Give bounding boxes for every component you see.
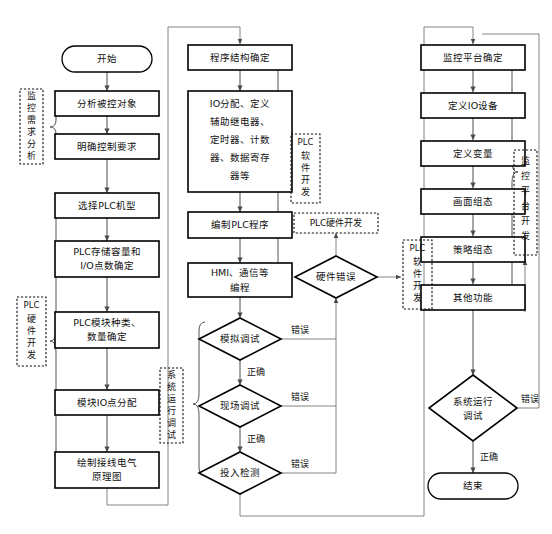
- annotation-monitor-platform-dev-c6: 发: [521, 230, 530, 241]
- node-wiring-diagram-line1: 绘制接线电气: [77, 457, 137, 468]
- node-define-variable[interactable]: 定义变量: [421, 141, 525, 166]
- node-plc-memory-io-line1: PLC存储容量和: [73, 246, 141, 257]
- annotation-plc-sw-dev-right-c4: 开: [413, 281, 422, 291]
- brace-sys-run-debug: [193, 322, 205, 476]
- annotation-plc-hw-dev-left-c1: PLC: [24, 300, 40, 310]
- node-io-allocation-line2: 辅助继电器、: [210, 116, 270, 127]
- edge-label-sim-ok: 正确: [247, 366, 265, 377]
- node-strategy-configuration-label: 策略组态: [453, 244, 493, 255]
- node-hmi-communication-line2: 编程: [230, 282, 250, 293]
- node-plc-memory-io-line2: I/O点数确定: [80, 260, 133, 271]
- edge-label-commission-error: 错误: [291, 458, 309, 469]
- node-screen-configuration[interactable]: 画面组态: [421, 189, 525, 214]
- node-commission-check[interactable]: 投入检测: [199, 452, 281, 494]
- node-analyze-object-label: 分析被控对象: [77, 98, 137, 109]
- edge-label-sys-ok: 正确: [480, 451, 498, 462]
- annotation-monitor-platform-dev-c3: 平: [521, 186, 530, 196]
- annotation-req-analysis-c5: 分: [27, 139, 36, 149]
- node-screen-configuration-label: 画面组态: [453, 196, 493, 207]
- node-system-run-debug-line2: 调试: [463, 410, 483, 421]
- node-io-allocation-line5: 器等: [230, 170, 250, 181]
- node-program-structure[interactable]: 程序结构确定: [188, 45, 292, 70]
- annotation-sys-run-debug-c3: 运: [167, 394, 176, 404]
- annotation-monitor-platform-dev-c2: 控: [521, 170, 530, 181]
- node-module-io-alloc[interactable]: 模块IO点分配: [55, 390, 159, 415]
- node-plc-memory-io[interactable]: PLC存储容量和 I/O点数确定: [55, 241, 159, 277]
- annotation-plc-hw-dev-box-label: PLC硬件开发: [310, 217, 363, 228]
- annotation-plc-sw-dev-right-c3: 件: [413, 268, 422, 279]
- annotation-plc-sw-dev-mid-c1: PLC: [298, 137, 314, 147]
- node-hardware-error-label: 硬件错误: [316, 271, 356, 282]
- annotation-plc-sw-dev-mid: PLC 软 件 开 发: [291, 134, 320, 203]
- annotation-monitor-platform-dev-c4: 台: [521, 200, 530, 211]
- annotation-plc-sw-dev-mid-c4: 开: [301, 175, 310, 185]
- node-field-debug[interactable]: 现场调试: [199, 385, 281, 427]
- node-system-run-debug-line1: 系统运行: [453, 396, 493, 407]
- node-hardware-error[interactable]: 硬件错误: [295, 256, 377, 298]
- node-simulation-debug-label: 模拟调试: [220, 333, 260, 344]
- node-end-label: 结束: [463, 480, 483, 491]
- annotation-sys-run-debug: 系 统 运 行 调 试: [160, 368, 183, 443]
- flowchart-svg: 开始 分析被控对象 明确控制要求 选择PLC机型 PLC存储容量和 I/O点数确…: [0, 0, 552, 534]
- node-monitoring-platform-label: 监控平台确定: [443, 52, 503, 63]
- annotation-plc-sw-dev-mid-c3: 件: [301, 162, 310, 173]
- edge-sysdebug-error-loop: [482, 34, 539, 408]
- edge-label-field-ok: 正确: [247, 433, 265, 444]
- node-strategy-configuration[interactable]: 策略组态: [421, 237, 525, 262]
- node-io-allocation[interactable]: IO分配、定义 辅助继电器、 定时器、计数 器、数据寄存 器等: [188, 91, 292, 192]
- annotation-monitor-platform-dev-c5: 开: [521, 216, 530, 226]
- edge-label-field-error: 错误: [291, 391, 309, 402]
- annotation-plc-sw-dev-right-c2: 软: [413, 256, 422, 267]
- annotation-plc-hw-dev-left-c2: 硬: [27, 314, 36, 324]
- annotation-plc-hw-dev-left: PLC 硬 件 开 发: [17, 297, 46, 366]
- node-plc-module-type-line1: PLC模块种类、: [73, 317, 141, 328]
- annotation-req-analysis-c6: 析: [27, 150, 36, 161]
- node-select-plc-model-label: 选择PLC机型: [78, 200, 136, 211]
- node-write-plc-program-label: 编制PLC程序: [211, 219, 269, 230]
- annotation-sys-run-debug-c4: 行: [167, 405, 176, 416]
- node-analyze-object[interactable]: 分析被控对象: [55, 91, 159, 116]
- annotation-sys-run-debug-c1: 系: [167, 370, 176, 380]
- node-write-plc-program[interactable]: 编制PLC程序: [188, 212, 292, 238]
- annotation-plc-sw-dev-mid-c2: 软: [301, 150, 310, 161]
- annotation-req-analysis-c3: 需: [27, 115, 36, 125]
- node-io-allocation-line1: IO分配、定义: [210, 98, 270, 109]
- flowchart-canvas: 开始 分析被控对象 明确控制要求 选择PLC机型 PLC存储容量和 I/O点数确…: [0, 0, 552, 534]
- node-system-run-debug[interactable]: 系统运行 调试: [429, 375, 517, 441]
- node-define-variable-label: 定义变量: [453, 148, 493, 159]
- node-simulation-debug[interactable]: 模拟调试: [199, 318, 281, 360]
- annotation-req-analysis-c1: 监: [27, 90, 36, 101]
- node-define-io-device[interactable]: 定义IO设备: [421, 93, 525, 118]
- annotation-sys-run-debug-c2: 统: [167, 381, 176, 392]
- annotation-plc-hw-dev-box: PLC硬件开发: [294, 213, 378, 233]
- annotation-plc-hw-dev-left-c3: 件: [27, 325, 36, 336]
- node-other-functions[interactable]: 其他功能: [421, 285, 525, 310]
- annotation-monitor-platform-dev-c1: 监: [521, 155, 530, 166]
- node-field-debug-label: 现场调试: [220, 400, 260, 411]
- node-io-allocation-line4: 器、数据寄存: [210, 152, 270, 163]
- node-program-structure-label: 程序结构确定: [210, 52, 270, 63]
- node-monitoring-platform[interactable]: 监控平台确定: [421, 45, 525, 70]
- node-module-io-alloc-label: 模块IO点分配: [77, 397, 137, 408]
- node-clarify-requirements[interactable]: 明确控制要求: [55, 134, 159, 159]
- node-hmi-communication-line1: HMI、通信等: [211, 267, 269, 278]
- annotation-req-analysis-c4: 求: [27, 126, 36, 137]
- node-commission-check-label: 投入检测: [220, 467, 260, 478]
- annotation-plc-sw-dev-mid-c5: 发: [301, 186, 310, 197]
- node-hmi-communication[interactable]: HMI、通信等 编程: [188, 263, 292, 297]
- node-other-functions-label: 其他功能: [453, 292, 493, 303]
- node-select-plc-model[interactable]: 选择PLC机型: [55, 193, 159, 218]
- annotation-plc-hw-dev-left-c5: 发: [27, 349, 36, 360]
- node-start-label: 开始: [97, 53, 117, 64]
- node-io-allocation-line3: 定时器、计数: [210, 134, 270, 145]
- node-start[interactable]: 开始: [62, 46, 152, 72]
- node-end[interactable]: 结束: [428, 473, 518, 499]
- annotation-sys-run-debug-c5: 调: [167, 418, 176, 428]
- node-wiring-diagram[interactable]: 绘制接线电气 原理图: [55, 452, 159, 488]
- node-plc-module-type[interactable]: PLC模块种类、 数量确定: [55, 312, 159, 348]
- edge-label-sim-error: 错误: [291, 324, 309, 335]
- annotation-req-analysis: 监 控 需 求 分 析: [20, 89, 43, 164]
- annotation-plc-sw-dev-right-c5: 发: [413, 292, 422, 303]
- edge-label-sys-error: 错误: [521, 393, 539, 404]
- annotation-plc-hw-dev-left-c4: 开: [27, 338, 36, 348]
